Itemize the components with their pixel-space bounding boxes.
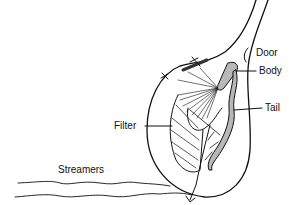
larvacean-house-diagram — [0, 0, 289, 205]
inner-channel — [187, 108, 222, 130]
filter-outline — [170, 95, 203, 172]
label-door: Door — [256, 48, 278, 58]
door-flap — [244, 48, 248, 62]
streamers — [15, 181, 192, 197]
label-body: Body — [259, 66, 282, 76]
label-tail: Tail — [265, 103, 280, 113]
filter-fan — [178, 68, 218, 119]
label-filter: Filter — [114, 121, 136, 131]
outflow-stem — [190, 125, 210, 200]
leader-tail — [234, 108, 262, 110]
label-streamers: Streamers — [58, 165, 104, 175]
